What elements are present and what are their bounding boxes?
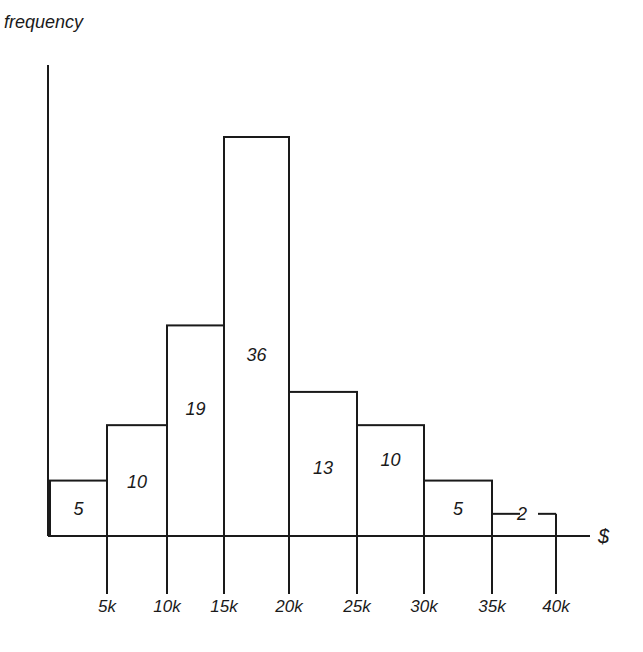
bar-value-label: 19 <box>185 399 205 419</box>
bar-value-label: 5 <box>453 499 464 519</box>
bar-value-label: 2 <box>516 504 527 524</box>
histogram-bar <box>167 325 224 536</box>
x-tick-label: 40k <box>542 597 571 616</box>
histogram-bar <box>357 425 424 536</box>
histogram-bar <box>224 137 289 536</box>
bar-value-label: 5 <box>73 499 84 519</box>
bar-value-label: 10 <box>127 472 147 492</box>
bar-value-label: 10 <box>380 450 400 470</box>
y-axis-label: frequency <box>4 12 84 32</box>
x-tick-label: 10k <box>153 597 182 616</box>
x-axis-label: $ <box>597 525 610 547</box>
x-tick-label: 15k <box>210 597 239 616</box>
bar-value-label: 13 <box>313 458 333 478</box>
histogram-chart: frequency5101936131052$5k10k15k20k25k30k… <box>0 0 643 652</box>
x-tick-label: 30k <box>410 597 439 616</box>
bar-value-label: 36 <box>246 345 267 365</box>
x-tick-label: 20k <box>274 597 304 616</box>
x-tick-label: 35k <box>478 597 507 616</box>
x-tick-label: 25k <box>342 597 372 616</box>
x-tick-label: 5k <box>98 597 117 616</box>
